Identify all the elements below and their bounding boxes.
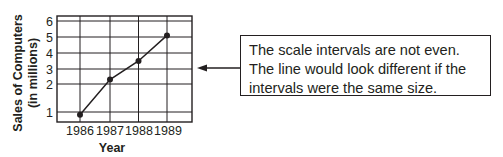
x-axis-title: Year <box>99 141 126 155</box>
y-tick-label: 4 <box>46 47 53 61</box>
y-tick-label: 5 <box>46 31 53 45</box>
callout-box: The scale intervals are not even. The li… <box>240 35 491 96</box>
y-axis-title-line-1: Sales of Computers <box>11 14 25 131</box>
horizontal-gridlines <box>57 21 192 112</box>
left-arrow-icon <box>197 65 240 72</box>
data-point <box>164 32 170 38</box>
data-line <box>80 35 167 114</box>
x-tick-label: 1988 <box>125 124 153 138</box>
x-tick-label: 1989 <box>154 124 182 138</box>
y-axis-title-line-2: (in millions) <box>26 38 40 108</box>
x-axis-ticks: 1986 1987 1988 1989 <box>66 124 182 138</box>
y-axis-ticks: 1 2 3 4 5 6 <box>46 15 53 120</box>
x-tick-label: 1986 <box>66 124 94 138</box>
callout-text-line: The scale intervals are not even. <box>249 41 490 60</box>
y-axis-title: Sales of Computers (in millions) <box>11 14 40 131</box>
y-tick-label: 3 <box>46 63 53 77</box>
y-tick-label: 6 <box>46 15 53 29</box>
data-point <box>77 112 83 118</box>
callout-text-line: The line would look different if the <box>249 60 490 79</box>
data-point <box>136 58 142 64</box>
y-tick-label: 2 <box>46 78 53 92</box>
x-tick-label: 1987 <box>96 124 124 138</box>
callout-text-line: intervals were the same size. <box>249 79 490 98</box>
data-point <box>107 77 113 83</box>
y-tick-label: 1 <box>46 106 53 120</box>
